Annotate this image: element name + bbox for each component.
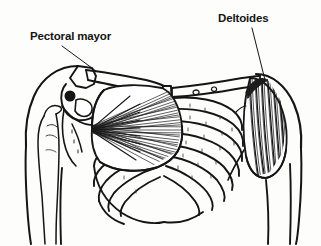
pectoralis-major-muscle [90, 79, 196, 184]
label-pectoral-mayor: Pectoral mayor [30, 30, 111, 42]
leader-line-deltoides [252, 28, 265, 80]
left-humerus-bone [38, 105, 62, 244]
label-deltoides: Deltoides [218, 12, 268, 24]
deltoid-muscle [244, 76, 287, 180]
